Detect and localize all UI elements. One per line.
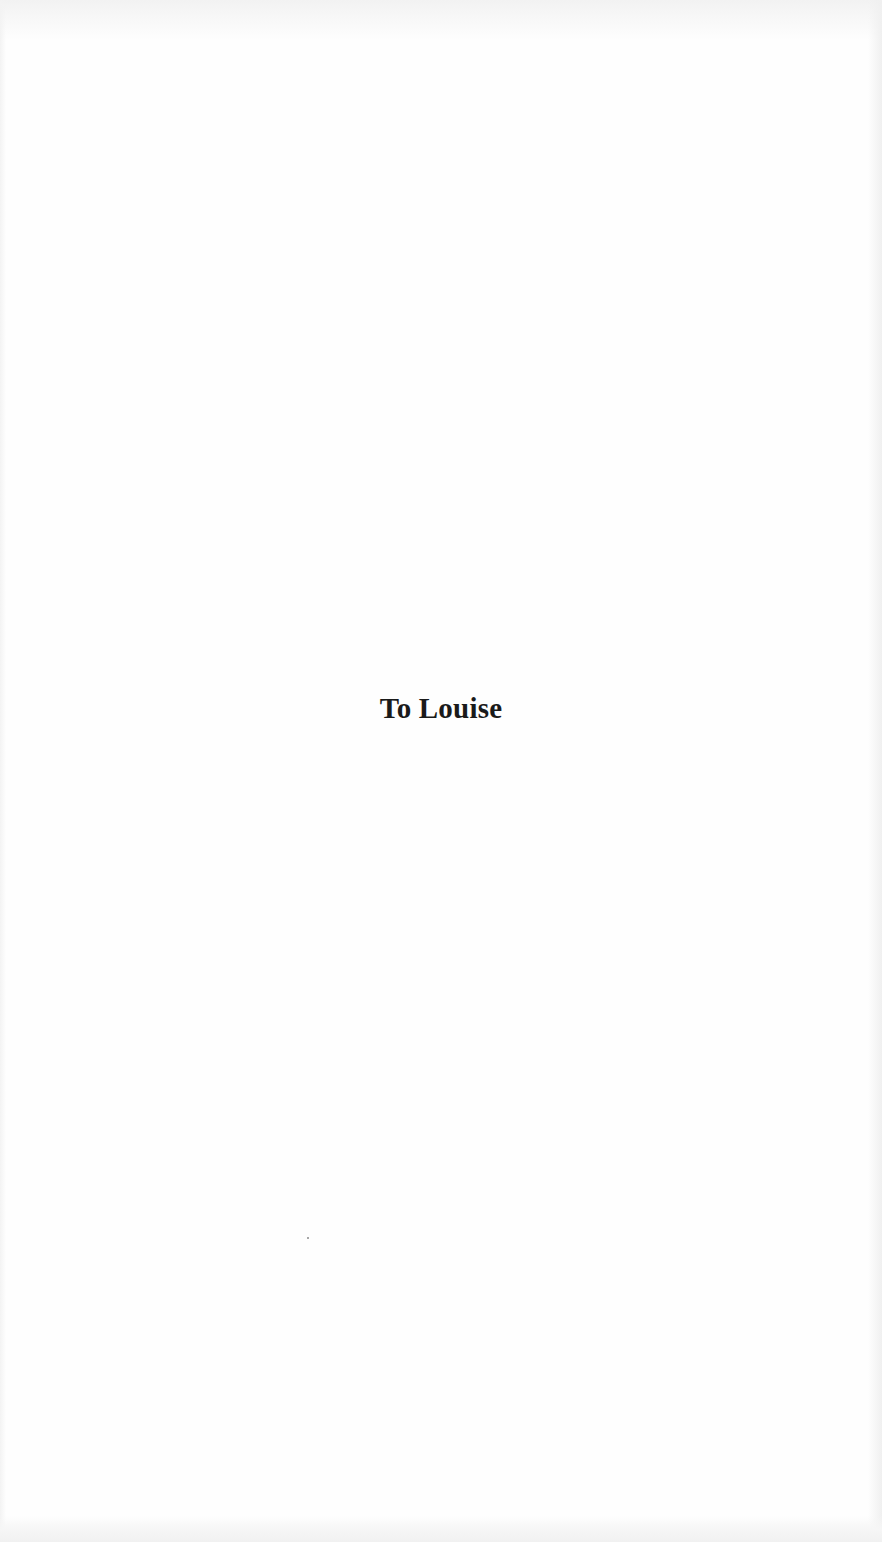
right-page-edge [868, 0, 882, 1542]
dedication-text: To Louise [0, 688, 882, 728]
top-edge-bleed-through [0, 0, 882, 40]
left-page-edge [0, 0, 6, 1542]
dust-speck [307, 1237, 309, 1239]
bottom-edge-bleed-through [0, 1516, 882, 1542]
book-page: To Louise [0, 0, 882, 1542]
